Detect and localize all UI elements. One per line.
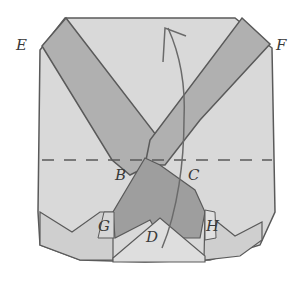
label-c: C: [188, 166, 200, 184]
label-b: B: [114, 166, 126, 184]
label-d: D: [145, 228, 158, 246]
label-f: F: [275, 36, 287, 54]
label-g: G: [98, 217, 110, 235]
origami-diagram: E F B C G H D: [0, 0, 299, 305]
label-e: E: [15, 36, 27, 54]
label-h: H: [205, 217, 220, 235]
